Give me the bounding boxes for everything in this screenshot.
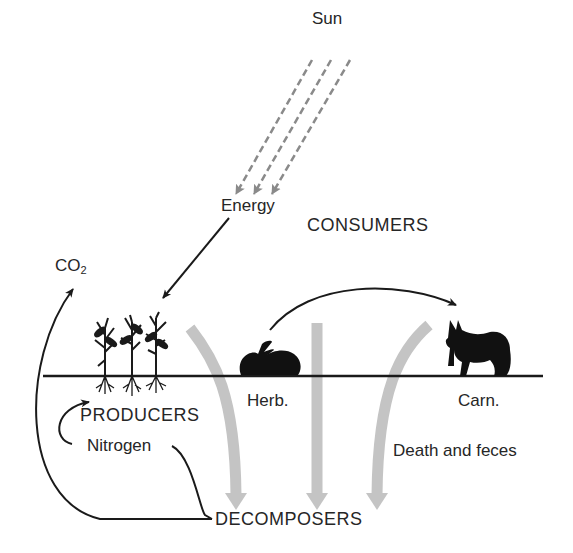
death-feces-label: Death and feces xyxy=(393,442,517,459)
co2-subscript: 2 xyxy=(81,264,87,276)
herbivore-label: Herb. xyxy=(247,392,289,409)
producers-label: PRODUCERS xyxy=(80,406,200,424)
rabbit-icon xyxy=(240,341,301,375)
herbivore-to-carnivore-arrow xyxy=(270,289,456,330)
co2-main: CO xyxy=(55,256,81,275)
decomposers-label: DECOMPOSERS xyxy=(215,510,363,528)
plant-icons xyxy=(94,312,169,396)
death-feces-arrows xyxy=(190,323,429,495)
carnivore-label: Carn. xyxy=(458,392,500,409)
co2-label: CO2 xyxy=(55,257,87,276)
energy-label: Energy xyxy=(221,197,275,214)
sun-rays xyxy=(236,60,350,194)
consumers-label: CONSUMERS xyxy=(307,216,429,234)
co2-arrow xyxy=(36,289,212,519)
decomposers-to-nitrogen-line xyxy=(172,446,212,519)
ecosystem-diagram xyxy=(0,0,573,553)
gray-arrowheads xyxy=(225,493,388,510)
nitrogen-label: Nitrogen xyxy=(87,437,151,454)
fox-icon xyxy=(446,320,511,376)
energy-arrow xyxy=(163,218,229,298)
sun-label: Sun xyxy=(312,10,342,27)
